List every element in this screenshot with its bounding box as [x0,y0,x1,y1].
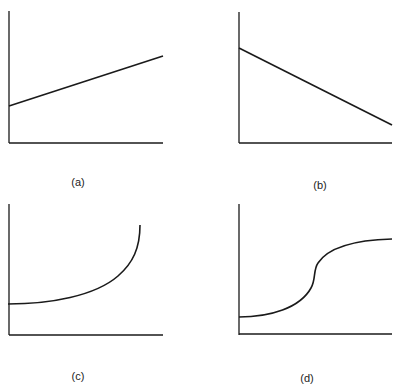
increasing-line [9,56,163,106]
decreasing-line [239,48,392,125]
panel-a-label: (a) [71,176,84,188]
panel-c [8,204,163,335]
figure-canvas [0,0,396,392]
sigmoid-curve [239,239,392,317]
panel-a [9,11,163,143]
convex-curve [8,225,140,304]
panel-b [239,12,392,143]
panel-c-label: (c) [72,370,85,382]
panel-b-label: (b) [313,179,326,191]
panel-d [239,204,392,335]
panel-d-label: (d) [300,372,313,384]
